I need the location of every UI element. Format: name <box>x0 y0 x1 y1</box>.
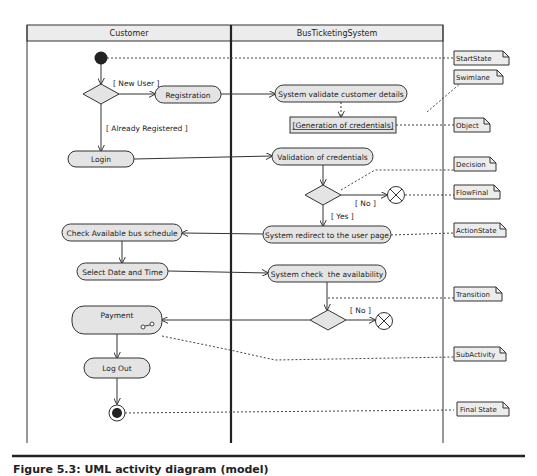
lane-header-customer: Customer <box>110 29 150 38</box>
note-object: Object <box>454 118 490 132</box>
lane-header-system: BusTicketingSystem <box>297 29 378 38</box>
label-payment: Payment <box>101 311 134 320</box>
final-state-icon <box>109 405 125 421</box>
svg-text:Swimlane: Swimlane <box>456 74 490 82</box>
label-validate-credentials: Validation of credentials <box>277 153 368 162</box>
label-check-availability: System check the availability <box>271 270 384 279</box>
svg-text:Final State: Final State <box>460 406 497 414</box>
label-validate-details: System validate customer details <box>278 90 404 99</box>
flow-final-icon <box>376 313 393 330</box>
label-check-schedule: Check Available bus schedule <box>66 229 178 238</box>
guard-new-user: [ New User ] <box>113 79 160 88</box>
note-subactivity: SubActivity <box>454 347 506 361</box>
note-swimlane: Swimlane <box>454 70 503 84</box>
note-actionstate: ActionState <box>454 223 506 237</box>
start-state-icon <box>95 52 108 65</box>
note-decision: Decision <box>454 157 496 171</box>
guard-yes: [ Yes ] <box>331 212 354 221</box>
svg-text:Transition: Transition <box>455 291 490 299</box>
svg-text:ActionState: ActionState <box>456 227 496 235</box>
label-gen-credentials: [Generation of credentials] <box>292 121 393 130</box>
note-startstate: StartState <box>454 51 509 65</box>
guard-no-1: [ No ] <box>355 199 376 208</box>
label-login: Login <box>91 155 111 164</box>
note-flowfinal: FlowFinal <box>454 185 500 199</box>
guard-no-2: [ No ] <box>350 306 371 315</box>
svg-text:Decision: Decision <box>456 161 486 169</box>
decision-availability <box>310 310 346 330</box>
figure-caption: Figure 5.3: UML activity diagram (model) <box>13 463 269 476</box>
label-logout: Log Out <box>102 364 131 373</box>
label-select-date: Select Date and Time <box>82 268 163 277</box>
note-transition: Transition <box>454 287 502 301</box>
note-final-state: Final State <box>457 402 509 416</box>
svg-text:SubActivity: SubActivity <box>456 351 496 359</box>
label-redirect: System redirect to the user page <box>265 231 389 240</box>
svg-text:StartState: StartState <box>456 55 492 63</box>
decision-valid-credentials <box>305 185 341 205</box>
svg-text:Object: Object <box>456 122 479 130</box>
label-registration: Registration <box>165 91 210 100</box>
guard-already-registered: [ Already Registered ] <box>106 124 188 133</box>
svg-text:FlowFinal: FlowFinal <box>456 189 488 197</box>
flow-final-icon <box>388 187 405 204</box>
